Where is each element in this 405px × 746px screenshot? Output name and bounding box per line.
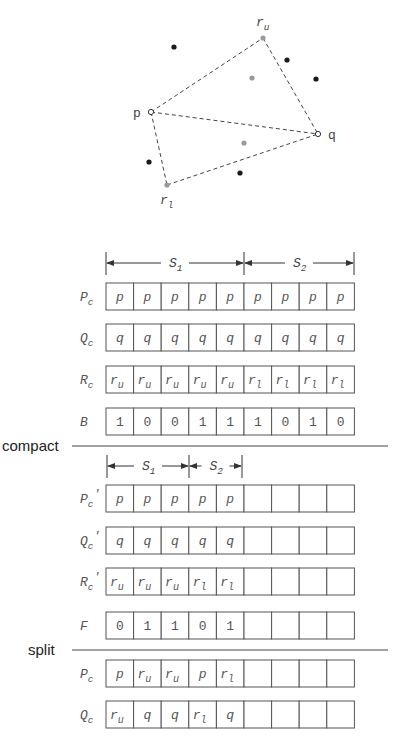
label-q: q (328, 128, 336, 143)
cell-value: p (115, 667, 124, 682)
array-cell (272, 701, 300, 728)
point-q (315, 131, 320, 136)
separator-label-compact: compact (2, 437, 60, 454)
cell-value: 1 (143, 619, 151, 634)
cell-symbol: q (143, 534, 151, 549)
cell-symbol: q (281, 331, 289, 346)
row-label: Rc (80, 373, 94, 391)
cell-value: p (336, 290, 345, 305)
segment-label-s2-sub: 2 (217, 466, 223, 477)
segment-label-s1: S1 (142, 459, 155, 477)
array-row-b: B100111010 (80, 408, 354, 435)
cell-value: q (254, 331, 262, 346)
cell-subscript: l (200, 582, 206, 593)
cell-subscript: l (338, 380, 344, 391)
cell-symbol: p (225, 492, 234, 507)
hull-edge-dashed (263, 38, 318, 134)
cell-value: p (198, 667, 207, 682)
cell-value: q (226, 534, 234, 549)
cell-value: p (225, 492, 234, 507)
array-row-q-c-split: Qcruqqrlq (80, 701, 354, 728)
cell-value: 0 (199, 619, 207, 634)
cell-symbol: r (110, 373, 118, 388)
segment-label-s2: S2 (210, 459, 224, 477)
array-cell (244, 527, 272, 554)
cell-symbol: r (193, 373, 201, 388)
cell-symbol: q (226, 331, 234, 346)
point-p (148, 109, 153, 114)
row-label-main: P (80, 492, 88, 507)
cell-symbol: r (137, 373, 145, 388)
cell-symbol: p (115, 667, 124, 682)
black-point (171, 44, 176, 49)
cell-value: q (116, 534, 124, 549)
array-cell (327, 527, 355, 554)
row-label: Qc (80, 708, 94, 726)
row-label-sub: c (88, 674, 94, 685)
cell-subscript: u (118, 380, 124, 391)
array-cell (272, 485, 300, 512)
cell-value: p (115, 492, 124, 507)
hull-edge-dashed (151, 112, 318, 134)
cell-value: p (198, 290, 207, 305)
cell-subscript: l (228, 674, 234, 685)
array-cell (327, 701, 355, 728)
cell-symbol: q (309, 331, 317, 346)
array-cell (244, 485, 272, 512)
segment-label-s2-main: S (210, 459, 218, 474)
array-cell (299, 485, 327, 512)
cell-value: 1 (199, 415, 207, 430)
array-cell (327, 568, 355, 595)
cell-subscript: u (173, 380, 179, 391)
label-r-u: ru (256, 15, 270, 33)
cell-symbol: q (171, 534, 179, 549)
cell-symbol: q (199, 534, 207, 549)
cell-value: 0 (116, 619, 124, 634)
row-label: Qc (80, 331, 94, 349)
array-row-f: F01101 (80, 612, 354, 639)
cell-value: 1 (171, 619, 179, 634)
segment-label-s1-sub: 1 (150, 466, 156, 477)
cell-symbol: r (303, 373, 311, 388)
row-label-main: R (80, 575, 88, 590)
cell-symbol: r (110, 575, 118, 590)
cell-value: 0 (337, 415, 345, 430)
cell-value: q (281, 331, 289, 346)
cell-symbol: r (193, 708, 201, 723)
row-label: B (80, 415, 88, 430)
cell-symbol: q (143, 331, 151, 346)
array-cell (272, 660, 300, 687)
gray-point (249, 75, 254, 80)
point-r-l (164, 182, 169, 187)
cell-value: p (115, 290, 124, 305)
cell-value: p (170, 290, 179, 305)
cell-subscript: l (256, 380, 262, 391)
label-p: p (133, 106, 141, 121)
cell-symbol: p (115, 492, 124, 507)
row-label: Qc′ (80, 529, 100, 552)
cell-symbol: r (137, 667, 145, 682)
cell-value: q (143, 331, 151, 346)
array-cell (272, 527, 300, 554)
array-rows: PcpppppppppQcqqqqqqqqqRcrurururururlrlrl… (80, 283, 354, 728)
label-r-u-sub: u (264, 22, 270, 33)
cell-symbol: r (275, 373, 283, 388)
cell-symbol: p (280, 290, 289, 305)
cell-symbol: p (198, 290, 207, 305)
array-cell (272, 612, 300, 639)
array-cell (244, 612, 272, 639)
segment-label-s2-main: S (293, 256, 301, 271)
cell-symbol: p (336, 290, 345, 305)
array-cell (244, 568, 272, 595)
cell-value: p (280, 290, 289, 305)
row-label: Pc (80, 667, 94, 685)
cell-value: 1 (116, 415, 124, 430)
cell-symbol: p (308, 290, 317, 305)
segment-label-s2: S2 (293, 256, 307, 274)
row-label-main: B (80, 415, 88, 430)
row-label-main: R (80, 373, 88, 388)
cell-symbol: r (137, 575, 145, 590)
row-label-main: Q (80, 331, 88, 346)
row-label-main: P (80, 667, 88, 682)
cell-symbol: q (143, 708, 151, 723)
